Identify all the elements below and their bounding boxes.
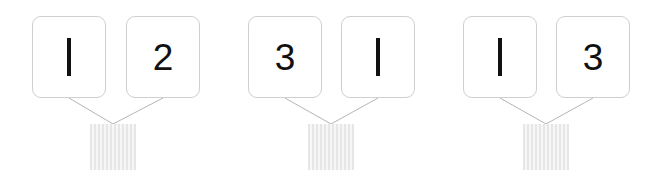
number-card-value: 1 — [498, 38, 502, 76]
number-card-value: 3 — [583, 39, 604, 76]
number-card[interactable]: 1 — [463, 16, 537, 98]
diagram-canvas: 123113 — [0, 0, 662, 191]
number-bond-group: 13 — [0, 0, 662, 191]
result-answer-box[interactable] — [523, 124, 569, 170]
number-card[interactable]: 3 — [556, 16, 630, 98]
